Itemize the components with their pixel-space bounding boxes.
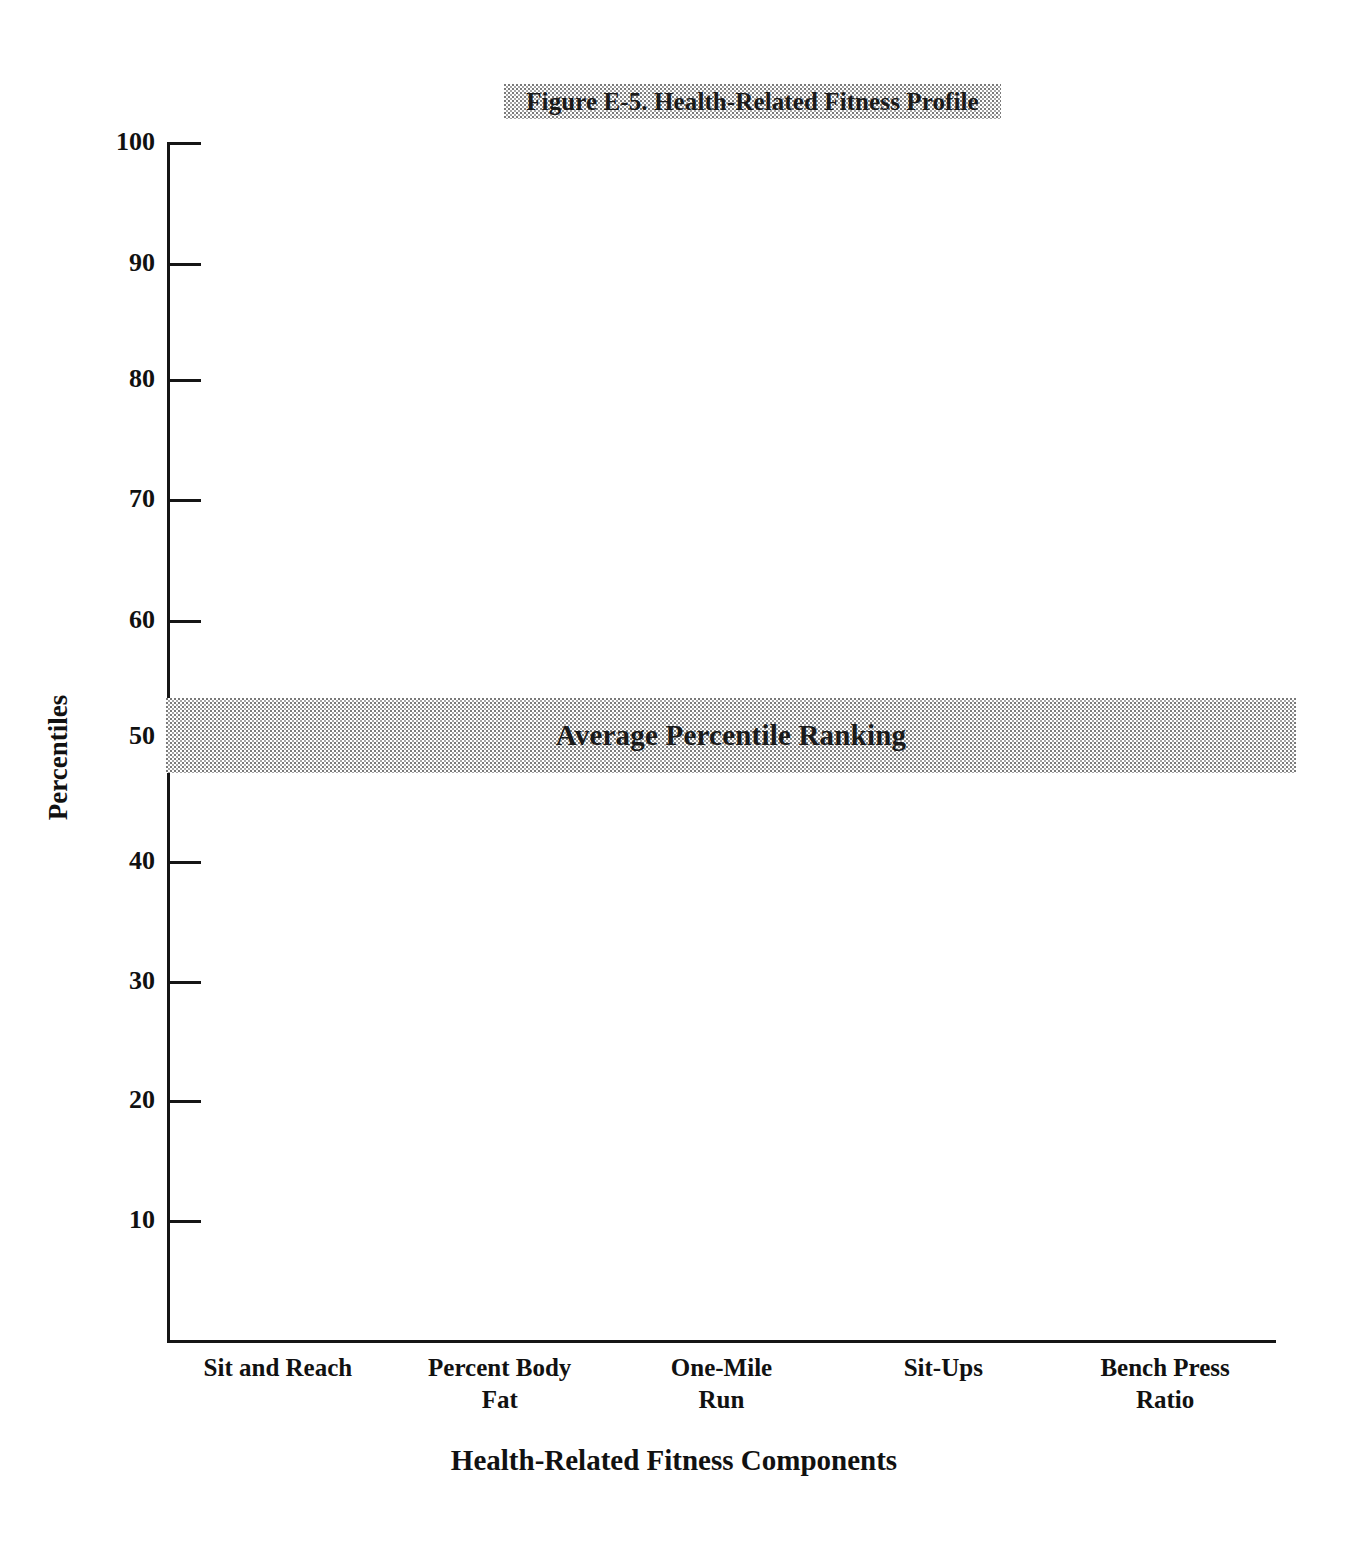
average-percentile-band: Average Percentile Ranking xyxy=(166,698,1296,773)
y-tick-mark-90 xyxy=(170,263,201,266)
y-tick-label-100: 100 xyxy=(95,129,155,155)
x-label-percent-body-fat: Percent Body Fat xyxy=(389,1352,611,1442)
y-tick-mark-70 xyxy=(170,499,201,502)
y-tick-label-90: 90 xyxy=(95,250,155,276)
x-label-line1: Bench Press xyxy=(1100,1354,1229,1381)
figure-title-banner: Figure E-5. Health-Related Fitness Profi… xyxy=(504,84,1001,119)
y-tick-label-80: 80 xyxy=(95,366,155,392)
x-label-sit-and-reach: Sit and Reach xyxy=(167,1352,389,1442)
x-label-line1: Sit-Ups xyxy=(904,1354,983,1381)
y-tick-label-60: 60 xyxy=(95,607,155,633)
x-axis-title: Health-Related Fitness Components xyxy=(0,1444,1348,1477)
x-label-line1: Percent Body xyxy=(428,1354,571,1381)
y-tick-mark-80 xyxy=(170,379,201,382)
y-tick-mark-60 xyxy=(170,620,201,623)
x-label-line1: One-Mile xyxy=(671,1354,772,1381)
y-tick-mark-30 xyxy=(170,981,201,984)
y-tick-label-70: 70 xyxy=(95,486,155,512)
y-tick-label-20: 20 xyxy=(95,1087,155,1113)
y-axis-title: Percentiles xyxy=(43,658,74,858)
x-label-line1: Sit and Reach xyxy=(204,1354,353,1381)
x-label-sit-ups: Sit-Ups xyxy=(832,1352,1054,1442)
y-tick-label-40: 40 xyxy=(95,848,155,874)
average-percentile-band-label: Average Percentile Ranking xyxy=(556,719,906,752)
x-label-line2: Fat xyxy=(389,1384,611,1416)
y-tick-mark-20 xyxy=(170,1100,201,1103)
x-label-bench-press-ratio: Bench Press Ratio xyxy=(1054,1352,1276,1442)
x-axis-category-labels: Sit and Reach Percent Body Fat One-Mile … xyxy=(167,1352,1276,1442)
y-tick-mark-40 xyxy=(170,861,201,864)
figure-title-text: Figure E-5. Health-Related Fitness Profi… xyxy=(526,88,979,116)
y-tick-mark-100 xyxy=(170,142,201,145)
x-label-one-mile-run: One-Mile Run xyxy=(611,1352,833,1442)
y-tick-label-30: 30 xyxy=(95,968,155,994)
x-label-line2: Run xyxy=(611,1384,833,1416)
y-tick-label-10: 10 xyxy=(95,1207,155,1233)
y-tick-label-50: 50 xyxy=(95,723,155,749)
x-label-line2: Ratio xyxy=(1054,1384,1276,1416)
y-tick-mark-10 xyxy=(170,1220,201,1223)
